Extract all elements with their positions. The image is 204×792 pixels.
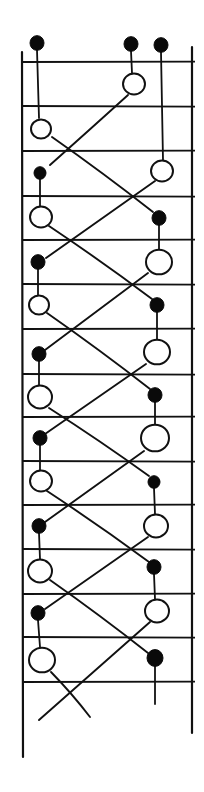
left-open-bead-icon bbox=[28, 386, 52, 409]
bead-stems bbox=[37, 50, 163, 704]
right-open-bead-icon bbox=[123, 74, 145, 95]
rung bbox=[22, 106, 195, 107]
ladder-diagram bbox=[0, 0, 204, 792]
left-filled-bead-icon bbox=[31, 606, 45, 621]
left-open-bead-icon bbox=[28, 560, 52, 583]
crossing-strand bbox=[51, 672, 90, 717]
right-filled-bead-icon bbox=[152, 211, 166, 226]
left-open-bead-icon bbox=[31, 120, 51, 139]
left-filled-bead-icon bbox=[33, 431, 47, 446]
rung bbox=[22, 284, 195, 285]
right-filled-bead-icon bbox=[147, 560, 161, 575]
beads bbox=[28, 36, 173, 673]
right-filled-bead-icon bbox=[147, 650, 163, 667]
right-open-bead-icon bbox=[144, 515, 168, 538]
right-open-bead-icon bbox=[145, 600, 169, 623]
left-filled-bead-icon bbox=[32, 347, 46, 362]
left-open-bead-icon bbox=[29, 296, 49, 315]
crossing-strand bbox=[45, 537, 148, 609]
crossing-strand bbox=[47, 313, 150, 389]
rung bbox=[22, 196, 195, 197]
bead-stem bbox=[161, 52, 163, 160]
bead-stem bbox=[154, 488, 155, 514]
top-filled-bead-icon bbox=[124, 37, 138, 52]
right-filled-bead-icon bbox=[148, 476, 160, 489]
rung bbox=[22, 374, 195, 375]
right-open-bead-icon bbox=[151, 161, 173, 182]
ladder-diagram-canvas bbox=[0, 0, 204, 792]
right-filled-bead-icon bbox=[150, 298, 164, 313]
rung bbox=[22, 637, 195, 638]
crossing-strand bbox=[52, 137, 153, 212]
left-filled-bead-icon bbox=[32, 519, 46, 534]
crossing-strand bbox=[49, 408, 149, 476]
bead-stem bbox=[39, 533, 40, 559]
left-open-bead-icon bbox=[29, 648, 55, 673]
rung bbox=[22, 461, 195, 462]
right-open-bead-icon bbox=[146, 250, 172, 275]
top-filled-bead-icon bbox=[30, 36, 44, 51]
crossing-strand bbox=[46, 181, 155, 258]
right-open-bead-icon bbox=[141, 425, 169, 452]
right-filled-bead-icon bbox=[148, 388, 162, 403]
bead-stem bbox=[38, 620, 40, 647]
top-filled-bead-icon bbox=[154, 38, 168, 53]
crossing-strands bbox=[39, 95, 155, 720]
bead-stem bbox=[131, 51, 132, 73]
right-open-bead-icon bbox=[144, 340, 170, 365]
left-open-bead-icon bbox=[30, 207, 52, 228]
left-open-bead-icon bbox=[30, 471, 52, 492]
bead-stem bbox=[154, 574, 155, 599]
crossing-strand bbox=[47, 491, 149, 562]
bead-stem bbox=[37, 50, 39, 118]
crossing-strand bbox=[50, 580, 148, 653]
left-filled-bead-icon bbox=[31, 255, 45, 270]
left-filled-bead-icon bbox=[34, 167, 46, 180]
left-rail bbox=[22, 52, 23, 757]
rung bbox=[22, 549, 195, 550]
rungs bbox=[22, 62, 195, 682]
crossing-strand bbox=[49, 226, 152, 299]
